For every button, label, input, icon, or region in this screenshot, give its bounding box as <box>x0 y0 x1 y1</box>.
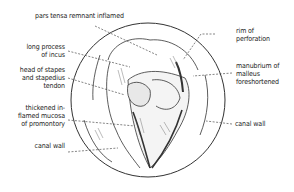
label-pars-tensa: pars tensa remnant inflamed <box>35 12 124 20</box>
label-thickened-mucosa: thickened in- flamed mucosa of promontor… <box>5 104 65 128</box>
label-long-process-incus: long process of incus <box>10 43 65 59</box>
label-head-of-stapes: head of stapes and stapedius tendon <box>5 66 65 90</box>
label-canal-wall-right: canal wall <box>235 120 265 128</box>
label-canal-wall-left: canal wall <box>5 142 65 150</box>
membrane-structures <box>84 39 208 168</box>
label-manubrium-malleus: manubrium of malleus foreshortened <box>236 62 279 86</box>
label-rim-of-perforation: rim of perforation <box>236 27 270 43</box>
